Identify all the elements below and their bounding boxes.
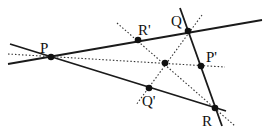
point-Pp bbox=[198, 63, 205, 70]
point-O bbox=[162, 60, 169, 67]
concurrency-diagram: PQRR'P'Q' bbox=[0, 0, 268, 131]
point-P bbox=[48, 54, 55, 61]
label-Q: Q bbox=[171, 13, 182, 29]
label-Qp: Q' bbox=[142, 93, 156, 109]
point-R bbox=[212, 105, 219, 112]
label-R: R bbox=[202, 113, 212, 129]
point-Q bbox=[185, 28, 192, 35]
cevian-R-Rp bbox=[117, 23, 235, 126]
label-Rp: R' bbox=[138, 22, 151, 38]
label-P: P bbox=[40, 40, 48, 56]
label-Pp: P' bbox=[206, 49, 217, 65]
cevian-lines bbox=[8, 15, 235, 126]
point-Qp bbox=[146, 85, 153, 92]
points bbox=[48, 28, 219, 112]
triangle-side-lines bbox=[8, 8, 262, 126]
